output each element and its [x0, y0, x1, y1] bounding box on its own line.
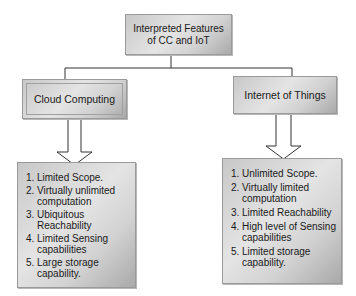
feature-number: 2.: [26, 185, 37, 196]
title-line-2: of CC and IoT: [133, 35, 224, 47]
feature-number: 1.: [231, 168, 242, 179]
arrow-down-icon-iot: [266, 114, 301, 159]
feature-number: 5.: [26, 257, 37, 268]
feature-text: Limited Sensing: [37, 233, 108, 244]
cloud-computing-label: Cloud Computing: [26, 83, 123, 115]
iot-feature-list: 1.Unlimited Scope.2.Virtually limitedcom…: [231, 168, 337, 268]
feature-text: Ubiquitous: [37, 209, 84, 220]
feature-number: 5.: [231, 246, 242, 257]
title-line-1: Interpreted Features: [133, 23, 224, 35]
feature-text: Virtually limited: [242, 182, 309, 193]
feature-text: Virtually unlimited: [37, 185, 115, 196]
feature-item: 4.Limited Sensingcapabilities: [26, 233, 131, 255]
title-node: Interpreted Features of CC and IoT: [125, 14, 232, 55]
feature-text: capability.: [26, 268, 131, 279]
arrow-down-icon-cc: [57, 119, 92, 165]
feature-number: 1.: [26, 172, 37, 183]
feature-number: 4.: [26, 233, 37, 244]
feature-item: 5.Large storagecapability.: [26, 257, 131, 279]
feature-item: 4.High level of Sensingcapabilities: [231, 221, 337, 243]
feature-item: 2.Virtually unlimitedcomputation: [26, 185, 131, 207]
feature-text: capabilities: [26, 244, 131, 255]
feature-text: Limited Reachability: [242, 207, 332, 218]
feature-item: 3.Limited Reachability: [231, 207, 337, 218]
feature-text: Reachability: [26, 220, 131, 231]
feature-text: High level of Sensing: [242, 221, 336, 232]
feature-number: 4.: [231, 221, 242, 232]
feature-text: computation: [231, 193, 337, 204]
feature-text: Large storage: [37, 257, 99, 268]
feature-text: capabilities: [231, 232, 337, 243]
feature-item: 3.UbiquitousReachability: [26, 209, 131, 231]
feature-item: 5.Limited storagecapability.: [231, 246, 337, 268]
feature-text: Limited Scope.: [37, 172, 103, 183]
feature-text: Unlimited Scope.: [242, 168, 318, 179]
feature-item: 1.Limited Scope.: [26, 172, 131, 183]
cloud-computing-node: Cloud Computing: [22, 79, 127, 119]
cc-feature-list: 1.Limited Scope.2.Virtually unlimitedcom…: [26, 172, 131, 279]
cloud-computing-features: 1.Limited Scope.2.Virtually unlimitedcom…: [17, 162, 136, 288]
feature-text: computation: [26, 196, 131, 207]
feature-item: 1.Unlimited Scope.: [231, 168, 337, 179]
feature-number: 3.: [231, 207, 242, 218]
feature-number: 3.: [26, 209, 37, 220]
feature-item: 2.Virtually limitedcomputation: [231, 182, 337, 204]
iot-features: 1.Unlimited Scope.2.Virtually limitedcom…: [222, 158, 342, 284]
feature-text: capability.: [231, 257, 337, 268]
feature-number: 2.: [231, 182, 242, 193]
feature-text: Limited storage: [242, 246, 310, 257]
iot-node: Internet of Things: [233, 76, 337, 114]
